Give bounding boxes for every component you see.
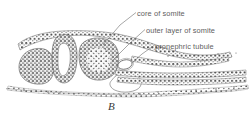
figure-caption: B: [108, 100, 115, 112]
somite-3-core-region: [87, 48, 110, 73]
somite-block-1: [19, 48, 54, 84]
label-core-of-somite: core of somite: [137, 10, 185, 18]
histology-diagram: [0, 0, 252, 121]
figure-container: core of somite outer layer of somite pro…: [0, 0, 252, 121]
label-pronephric-tubule: pronephric tubule: [155, 43, 214, 51]
label-outer-layer-of-somite: outer layer of somite: [146, 27, 215, 35]
